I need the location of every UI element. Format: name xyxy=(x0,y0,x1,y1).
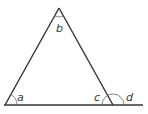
angle-label-c: c xyxy=(94,91,100,104)
angle-label-b: b xyxy=(56,22,63,35)
triangle-diagram: a b c d xyxy=(0,0,148,114)
side-left xyxy=(5,8,59,105)
angle-label-d: d xyxy=(126,91,134,104)
angle-arc-b xyxy=(55,16,64,17)
angle-arc-c-d xyxy=(102,94,124,105)
angle-label-a: a xyxy=(17,91,24,104)
side-right xyxy=(59,8,113,105)
